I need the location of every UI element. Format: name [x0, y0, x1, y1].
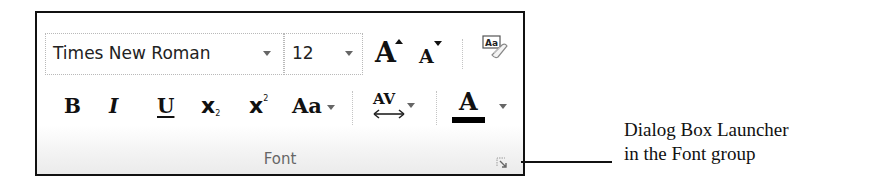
font-color-bar: [452, 117, 485, 123]
font-color-dropdown-arrow-icon[interactable]: [499, 104, 507, 109]
double-arrow-icon: [372, 109, 406, 119]
underline-button[interactable]: U: [157, 96, 174, 116]
character-spacing-button[interactable]: AV: [372, 92, 408, 124]
font-group-panel: Times New Roman 12 A A Aa B I U x2 x2: [35, 11, 525, 176]
subscript-button[interactable]: x2: [201, 95, 220, 118]
font-size-dropdown-arrow-icon[interactable]: [345, 51, 353, 56]
font-color-button[interactable]: A: [452, 90, 486, 124]
character-spacing-dropdown-arrow-icon[interactable]: [407, 103, 415, 108]
annotation: Dialog Box Launcher in the Font group: [624, 118, 789, 166]
shrink-arrow-icon: [434, 41, 442, 46]
subscript-mark: 2: [215, 109, 220, 118]
bold-button[interactable]: B: [64, 96, 81, 116]
italic-icon: I: [109, 94, 118, 118]
subscript-icon: x: [201, 93, 215, 118]
separator: [462, 39, 463, 69]
italic-button[interactable]: I: [109, 96, 118, 116]
superscript-button[interactable]: x2: [249, 95, 268, 117]
grow-font-icon: A: [375, 37, 396, 68]
change-case-button[interactable]: Aa: [292, 95, 322, 116]
change-case-icon: Aa: [292, 93, 322, 118]
group-label: Font: [37, 150, 523, 168]
shrink-font-button[interactable]: A: [419, 47, 434, 66]
separator: [436, 91, 437, 125]
superscript-mark: 2: [263, 94, 268, 103]
font-size-value: 12: [292, 43, 314, 63]
font-color-icon: A: [459, 90, 478, 114]
superscript-icon: x: [249, 93, 263, 118]
annotation-line-2: in the Font group: [624, 142, 789, 166]
dialog-box-launcher-icon: [496, 157, 508, 168]
svg-text:Aa: Aa: [485, 38, 498, 48]
shrink-font-icon: A: [419, 45, 434, 67]
clear-formatting-button[interactable]: Aa: [480, 33, 510, 63]
dialog-box-launcher-button[interactable]: [496, 153, 508, 164]
font-name-combobox[interactable]: Times New Roman: [45, 33, 284, 75]
bold-icon: B: [64, 94, 81, 118]
annotation-line-1: Dialog Box Launcher: [624, 118, 789, 142]
character-spacing-icon: AV: [373, 92, 395, 107]
underline-icon: U: [157, 94, 174, 118]
font-size-combobox[interactable]: 12: [284, 33, 363, 75]
clear-formatting-icon: Aa: [480, 33, 510, 63]
font-name-dropdown-arrow-icon[interactable]: [263, 51, 271, 56]
separator: [352, 91, 353, 125]
font-name-value: Times New Roman: [53, 43, 211, 63]
grow-arrow-icon: [395, 39, 403, 44]
grow-font-button[interactable]: A: [375, 39, 396, 66]
change-case-dropdown-arrow-icon[interactable]: [327, 105, 335, 110]
callout-line: [521, 161, 612, 163]
